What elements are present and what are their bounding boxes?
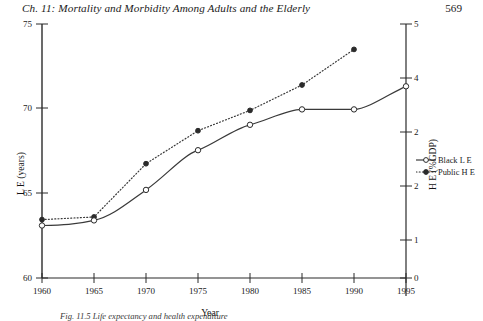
chart-legend: Black L E Public H E [416, 154, 483, 178]
series-black-le [39, 84, 408, 229]
ytick-label-left-70: 70 [10, 103, 32, 113]
xtick-label-1985: 1985 [282, 286, 322, 296]
axis-lines [42, 24, 406, 296]
figure-caption: Fig. 11.5 Life expectancy and health exp… [60, 311, 360, 321]
ytick-label-right-5: 5 [414, 19, 436, 29]
ytick-label-right-0: 0 [414, 273, 436, 283]
figure-line-chart: 75 70 65 60 5 4 2 2 1 0 1960 1965 1970 1… [0, 18, 483, 319]
ytick-label-right-4: 4 [414, 73, 436, 83]
page-number: 569 [445, 2, 462, 14]
chapter-title: Ch. 11: Mortality and Morbidity Among Ad… [22, 2, 310, 14]
legend-label-public-he: Public H E [438, 168, 475, 177]
legend-marker-open-circle-icon [416, 155, 436, 165]
ytick-label-left-75: 75 [10, 19, 32, 29]
xtick-label-1975: 1975 [178, 286, 218, 296]
xtick-label-1980: 1980 [230, 286, 270, 296]
xtick-label-1970: 1970 [126, 286, 166, 296]
xtick-label-1960: 1960 [22, 286, 62, 296]
xtick-label-1965: 1965 [74, 286, 114, 296]
ytick-label-right-1: 1 [414, 235, 436, 245]
chart-plot-area [0, 18, 483, 319]
legend-item-black-le: Black L E [416, 154, 483, 166]
legend-item-public-he: Public H E [416, 166, 483, 178]
xtick-label-1990: 1990 [334, 286, 374, 296]
legend-label-black-le: Black L E [438, 156, 472, 165]
xtick-label-1995: 1995 [386, 286, 426, 296]
series-public-he [40, 47, 357, 222]
legend-marker-filled-circle-icon [416, 167, 436, 177]
y-axis-left-title: L E (years) [15, 134, 26, 214]
running-head: Ch. 11: Mortality and Morbidity Among Ad… [22, 2, 462, 18]
ytick-label-left-60: 60 [10, 273, 32, 283]
